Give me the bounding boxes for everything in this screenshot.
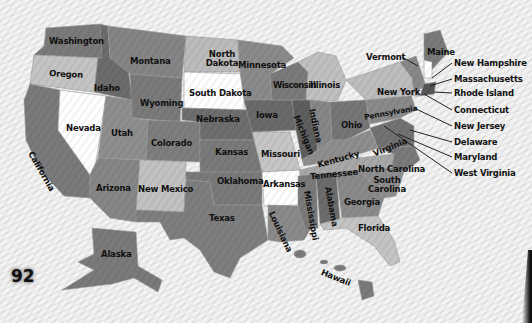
- label-new-york: New York: [377, 88, 420, 97]
- label-wyoming: Wyoming: [140, 99, 183, 108]
- label-michigan: Illinois: [310, 81, 340, 90]
- label-missouri: Missouri: [261, 150, 300, 159]
- label-minnesota: Minnesota: [238, 61, 286, 70]
- label-idaho: Idaho: [94, 84, 120, 93]
- label-montana: Montana: [130, 57, 171, 66]
- callout-new-jersey: New Jersey: [454, 122, 505, 131]
- state-new-hampshire[interactable]: [424, 60, 432, 78]
- callout-new-hampshire: New Hampshire: [454, 59, 527, 68]
- label-utah: Utah: [111, 129, 133, 138]
- callout-vermont: Vermont: [366, 53, 405, 62]
- label-oklahoma: Oklahoma: [217, 177, 263, 186]
- state-hawaii-3[interactable]: [334, 265, 346, 271]
- callout-delaware: Delaware: [454, 138, 497, 147]
- label-new-mexico: New Mexico: [138, 185, 193, 194]
- callout-connecticut: Connecticut: [454, 106, 509, 115]
- callout-west-virginia: West Virginia: [454, 169, 516, 178]
- label-north-carolina: North Carolina: [358, 165, 425, 174]
- label-georgia: Georgia: [344, 198, 380, 207]
- state-alaska[interactable]: [62, 228, 162, 292]
- label-ohio: Ohio: [341, 121, 362, 130]
- label-alaska: Alaska: [101, 250, 131, 259]
- label-south-carolina: South Carolina: [366, 176, 408, 193]
- state-hawaii-4[interactable]: [358, 280, 374, 300]
- label-nevada: Nevada: [66, 124, 101, 133]
- state-hawaii-2[interactable]: [320, 260, 328, 264]
- label-oregon: Oregon: [49, 69, 83, 79]
- label-kansas: Kansas: [215, 148, 248, 157]
- label-arkansas: Arkansas: [263, 180, 305, 189]
- label-arizona: Arizona: [96, 184, 131, 193]
- label-north-dakota: North Dakota: [204, 50, 240, 67]
- label-maine: Maine: [427, 48, 455, 57]
- label-south-dakota: South Dakota: [189, 89, 252, 98]
- callout-massachusetts: Massachusetts: [454, 75, 523, 84]
- label-texas: Texas: [209, 214, 235, 223]
- label-nebraska: Nebraska: [196, 115, 240, 124]
- label-iowa: Iowa: [256, 111, 278, 120]
- page-number: 92: [11, 266, 35, 286]
- label-colorado: Colorado: [151, 139, 192, 148]
- label-florida: Florida: [358, 224, 390, 233]
- state-hawaii-1[interactable]: [294, 250, 306, 258]
- callout-maryland: Maryland: [454, 153, 497, 162]
- label-washington: Washington: [49, 37, 104, 46]
- callout-rhode-island: Rhode Island: [454, 89, 514, 98]
